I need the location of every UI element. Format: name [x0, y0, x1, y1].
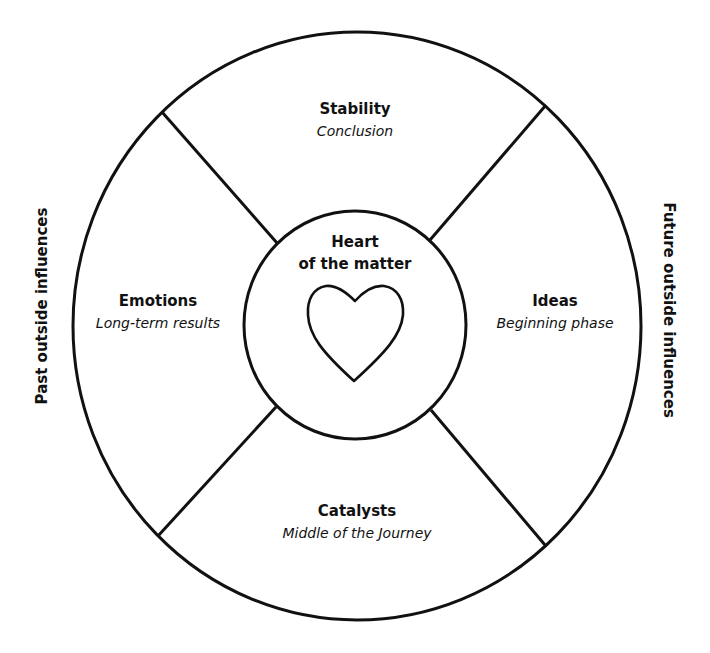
center-title-line1: Heart: [299, 231, 412, 253]
divider-top-left: [162, 112, 277, 243]
section-bottom: Catalysts Middle of the Journey: [282, 500, 431, 544]
section-bottom-subtitle: Middle of the Journey: [282, 522, 431, 544]
section-bottom-title: Catalysts: [282, 500, 431, 522]
section-top-subtitle: Conclusion: [317, 120, 393, 142]
center-label: Heart of the matter: [299, 231, 412, 275]
center-title-line2: of the matter: [299, 253, 412, 275]
heart-icon: [308, 286, 403, 381]
divider-bottom-right: [431, 410, 545, 545]
section-right-title: Ideas: [496, 290, 613, 312]
divider-bottom-left: [158, 407, 276, 536]
section-right-subtitle: Beginning phase: [496, 312, 613, 334]
section-left-subtitle: Long-term results: [96, 312, 220, 334]
divider-top-right: [430, 105, 546, 240]
section-top-title: Stability: [317, 98, 393, 120]
side-label-future: Future outside influences: [660, 202, 678, 418]
side-label-past: Past outside influences: [33, 208, 51, 405]
section-right: Ideas Beginning phase: [496, 290, 613, 334]
section-top: Stability Conclusion: [317, 98, 393, 142]
section-left: Emotions Long-term results: [96, 290, 220, 334]
section-left-title: Emotions: [96, 290, 220, 312]
